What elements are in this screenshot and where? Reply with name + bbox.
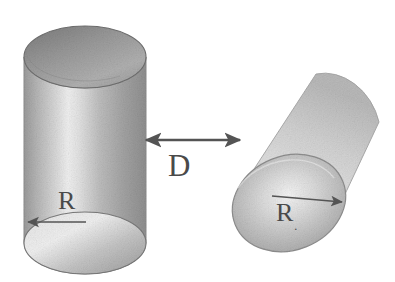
figure-canvas [0, 0, 395, 282]
left-cylinder-top-face [24, 26, 146, 88]
left-radius-label-R: R [58, 188, 75, 214]
right-radius-label-base: R [276, 198, 293, 227]
right-cylinder [218, 73, 379, 268]
right-radius-label-R: R. [276, 200, 296, 229]
right-radius-label-subscript: . [294, 219, 297, 233]
cylinder-separation-figure: D R R. [0, 0, 395, 282]
left-cylinder [24, 26, 146, 274]
separation-label-D: D [168, 150, 190, 181]
